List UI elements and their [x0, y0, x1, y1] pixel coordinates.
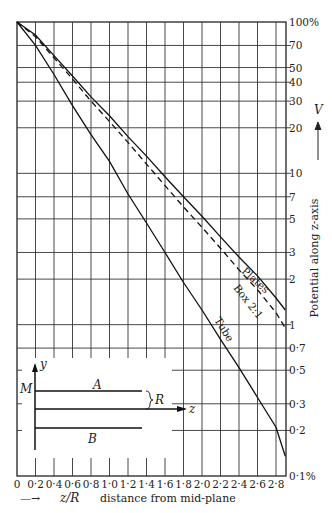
y-tick-label: 2 [289, 273, 296, 285]
x-tick-label: 2·8 [268, 478, 285, 490]
y-tick-label: 0·7 [289, 342, 306, 354]
y-tick-label: 3 [289, 246, 296, 258]
y-tick-label: 100% [289, 16, 319, 28]
x-tick-label: 2·0 [194, 478, 211, 490]
x-tick-label: 1·8 [175, 478, 192, 490]
y-tick-label: 0·1% [289, 470, 316, 482]
x-axis-var: z/R [59, 491, 79, 505]
y-tick-label: 0·3 [289, 398, 306, 410]
label-tube: Tube [212, 315, 236, 344]
x-tick-label: 1·2 [120, 478, 137, 490]
x-tick-label: 1·4 [138, 478, 155, 490]
x-tick-label: 1·6 [157, 478, 174, 490]
inset-label-r: R [154, 393, 164, 407]
x-tick-label: 0·2 [27, 478, 44, 490]
y-axis-label: Potential along z-axis [308, 198, 321, 317]
inset-label-m: M [19, 382, 33, 396]
y-tick-label: 5 [289, 213, 296, 225]
potential-chart: PlatesBox 2:1Tube yMARzB 00·20·40·60·81·… [0, 0, 332, 513]
x-tick-label: 0·6 [64, 478, 81, 490]
x-tick-label: 2·2 [212, 478, 229, 490]
x-tick-label: 0 [14, 478, 21, 490]
y-axis-var: V [314, 103, 324, 117]
y-tick-label: 30 [289, 95, 302, 107]
x-tick-label: 2·6 [249, 478, 266, 490]
inset-label-y: y [39, 357, 47, 371]
y-tick-label: 50 [289, 62, 302, 74]
x-tick-label: 0·8 [83, 478, 100, 490]
y-tick-label: 7 [289, 191, 296, 203]
y-tick-label: 1 [289, 319, 296, 331]
y-tick-label: 0·5 [289, 364, 306, 376]
y-axis-arrow-icon [315, 122, 321, 160]
y-tick-label: 0·2 [289, 424, 306, 436]
x-tick-label: 0·4 [46, 478, 63, 490]
x-tick-label: 1·0 [101, 478, 118, 490]
x-axis-label: distance from mid-plane [100, 492, 236, 505]
inset-label-b: B [87, 432, 97, 446]
inset-z-arrow-icon [177, 406, 187, 412]
x-tick-label: 2·4 [231, 478, 248, 490]
y-tick-label: 70 [289, 39, 302, 51]
y-tick-label: 10 [289, 167, 302, 179]
y-tick-label: 20 [289, 122, 302, 134]
inset-diagram: yMARzB [19, 357, 196, 458]
y-tick-label: 40 [289, 76, 302, 88]
x-axis-arrow: —→ [20, 492, 40, 505]
inset-label-a: A [92, 378, 102, 392]
inset-label-z: z [188, 402, 196, 416]
